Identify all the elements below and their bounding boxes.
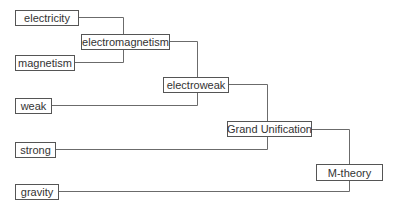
node-electricity: electricity: [15, 10, 79, 26]
edge-grand-unification-m-theory: [312, 130, 350, 165]
edge-electromagnetism-electroweak: [170, 42, 198, 78]
node-electroweak: electroweak: [163, 77, 229, 93]
edge-weak-electroweak: [52, 93, 198, 106]
node-magnetism: magnetism: [15, 55, 75, 71]
edge-magnetism-electromagnetism: [75, 50, 124, 63]
node-strong: strong: [15, 142, 56, 158]
node-weak: weak: [15, 98, 52, 114]
edge-electricity-electromagnetism: [79, 18, 124, 36]
edge-strong-grand-unification: [56, 137, 268, 150]
edge-gravity-m-theory: [59, 181, 350, 192]
node-electromagnetism: electromagnetism: [81, 34, 170, 50]
edge-electroweak-grand-unification: [229, 85, 268, 122]
node-grand-unification: Grand Unification: [227, 121, 312, 137]
node-gravity: gravity: [15, 184, 59, 200]
node-m-theory: M-theory: [316, 164, 383, 181]
